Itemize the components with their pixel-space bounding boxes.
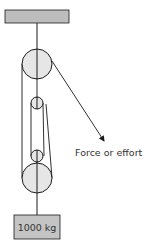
force-label: Force or effort [75,147,143,158]
force-arrow [52,61,104,141]
ceiling-support [5,10,69,23]
weight-label: 1000 kg [18,222,57,233]
pulley-diagram: 1000 kg Force or effort [0,0,149,247]
rope-small-right [43,103,44,156]
